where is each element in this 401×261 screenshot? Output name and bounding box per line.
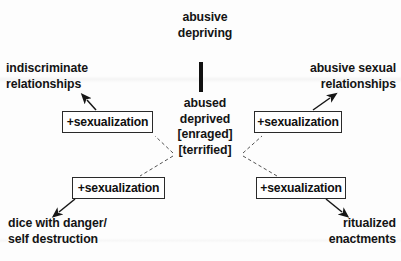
diagram-canvas: abusive depriving abused deprived [enrag… xyxy=(0,0,401,261)
connector-core-to-bottom-left xyxy=(140,156,173,176)
arrow-to-abusive-sexual-relationships xyxy=(313,98,330,110)
box-sexualization-top-right: +sexualization xyxy=(254,111,342,133)
arrow-to-indiscriminate-relationships xyxy=(87,100,96,110)
node-ritualized-enactments: ritualized enactments xyxy=(278,216,396,247)
node-abusive-depriving: abusive depriving xyxy=(150,10,260,41)
node-dice-with-danger: dice with danger/ self destruction xyxy=(8,216,148,247)
connector-core-to-bottom-right xyxy=(243,156,277,176)
node-abusive-sexual-relationships: abusive sexual relationships xyxy=(276,61,396,92)
node-indiscriminate-relationships: indiscriminate relationships xyxy=(6,61,124,92)
arrow-to-dice-with-danger xyxy=(59,199,75,212)
box-sexualization-bottom-left: +sexualization xyxy=(72,177,165,199)
box-sexualization-top-left: +sexualization xyxy=(62,111,153,133)
arrow-to-ritualized-enactments xyxy=(326,199,342,212)
node-abused-deprived: abused deprived [enraged] [terrified] xyxy=(150,96,260,158)
root-to-core-bar xyxy=(199,62,203,92)
box-sexualization-bottom-right: +sexualization xyxy=(256,177,346,199)
